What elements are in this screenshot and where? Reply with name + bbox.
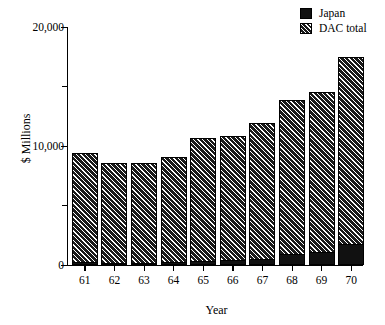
x-axis-tick-label: 61 — [79, 274, 91, 286]
bar-japan — [131, 263, 157, 265]
y-axis-tick-label: 0 — [58, 260, 64, 271]
bar-japan — [190, 261, 216, 265]
x-axis-tick — [144, 266, 145, 271]
plot-area: 20,00010,0000 61626364656667686970 — [67, 20, 367, 270]
x-axis-tick — [292, 266, 293, 271]
y-axis-tick-label: 20,000 — [32, 22, 64, 33]
bar-dac-total — [131, 163, 157, 265]
x-axis-tick — [84, 266, 85, 271]
bar-dac-total — [101, 163, 127, 265]
x-axis-title: Year — [0, 303, 385, 318]
y-axis-title: $ Millions — [2, 131, 18, 146]
x-axis-tick-label: 65 — [197, 274, 209, 286]
bar-dac-total — [279, 100, 305, 265]
bar-dac-total — [338, 57, 364, 265]
x-axis-tick-label: 64 — [168, 274, 180, 286]
x-axis-tick-label: 70 — [345, 274, 357, 286]
x-axis-tick-label: 67 — [257, 274, 269, 286]
x-axis-tick — [321, 266, 322, 271]
bar-dac-total — [72, 153, 98, 265]
legend-item-japan: Japan — [300, 6, 385, 20]
bar-japan — [249, 259, 275, 265]
bar-dac-total — [309, 92, 335, 265]
bar-dac-total — [220, 136, 246, 265]
x-axis-tick-label: 68 — [286, 274, 298, 286]
bar-dac-total — [190, 138, 216, 265]
x-axis-tick — [114, 266, 115, 271]
bar-japan — [72, 262, 98, 265]
bar-japan — [309, 252, 335, 265]
x-axis-tick — [262, 266, 263, 271]
x-axis-title-text: Year — [205, 303, 227, 317]
bar-japan — [101, 263, 127, 265]
bar-japan — [161, 262, 187, 265]
x-axis-tick-label: 63 — [138, 274, 150, 286]
x-axis-tick — [232, 266, 233, 271]
bar-japan — [220, 260, 246, 265]
x-axis-tick-label: 62 — [109, 274, 121, 286]
legend-label-japan: Japan — [319, 7, 345, 19]
y-axis-title-text: $ Millions — [19, 114, 34, 164]
legend-swatch-japan-icon — [300, 8, 312, 19]
y-axis-tick-label: 10,000 — [32, 141, 64, 152]
y-axis-tick-minor — [62, 205, 67, 206]
x-axis-tick — [173, 266, 174, 271]
x-axis-line — [67, 265, 363, 266]
bar-japan — [279, 254, 305, 265]
x-axis-tick-label: 66 — [227, 274, 239, 286]
x-axis-tick-label: 69 — [316, 274, 328, 286]
x-axis-tick — [351, 266, 352, 271]
bar-dac-total — [161, 157, 187, 265]
bar-japan — [338, 244, 364, 265]
x-axis-tick — [203, 266, 204, 271]
y-axis-line — [67, 27, 68, 266]
bar-dac-total — [249, 123, 275, 265]
bar-chart: Japan DAC total $ Millions 20,00010,0000… — [0, 0, 385, 325]
y-axis-tick-minor — [62, 86, 67, 87]
